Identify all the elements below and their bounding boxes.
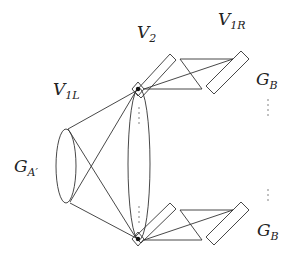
edge bbox=[180, 210, 202, 240]
bottom-rect-left bbox=[135, 203, 176, 243]
edge bbox=[144, 59, 233, 89]
edge bbox=[68, 129, 136, 238]
top-node-dot bbox=[136, 87, 140, 91]
label-v1l: V1L bbox=[53, 79, 80, 102]
label-v1r: V1R bbox=[218, 9, 246, 32]
gb-ellipsis-top bbox=[267, 99, 268, 115]
bottom-rect-right bbox=[206, 202, 249, 245]
label-ga: GA′ bbox=[14, 156, 39, 179]
ga-ellipse bbox=[56, 129, 76, 203]
label-gb-bottom: GB bbox=[257, 220, 279, 243]
label-v2: V2 bbox=[137, 22, 156, 45]
bottom-node-dot bbox=[136, 237, 140, 241]
top-rect-right bbox=[206, 51, 249, 94]
top-rect-left bbox=[135, 54, 176, 98]
edge bbox=[144, 210, 233, 240]
graph-diagram: V2 V1R V1L GA′ GB GB bbox=[0, 0, 296, 263]
v2-ellipsis-bottom bbox=[138, 206, 139, 222]
label-gb-top: GB bbox=[256, 69, 278, 92]
edge bbox=[180, 59, 202, 89]
gb-ellipsis-bottom bbox=[267, 189, 268, 200]
edge bbox=[70, 203, 136, 238]
v2-ellipsis-top bbox=[138, 107, 139, 123]
